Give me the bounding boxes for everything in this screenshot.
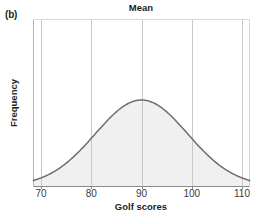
x-tick-label-110: 110 [234,188,250,199]
x-axis-title: Golf scores [33,201,249,212]
x-tick-label-80: 80 [86,188,97,199]
y-axis-title: Frequency [9,79,19,127]
curve-fill-area [34,100,250,186]
figure-panel-b: (b) Mean 708090100110 Golf scores Freque… [0,0,256,219]
x-tick-label-90: 90 [136,188,147,199]
distribution-plot [0,0,256,219]
x-tick-label-70: 70 [35,188,46,199]
x-tick-label-100: 100 [183,188,200,199]
